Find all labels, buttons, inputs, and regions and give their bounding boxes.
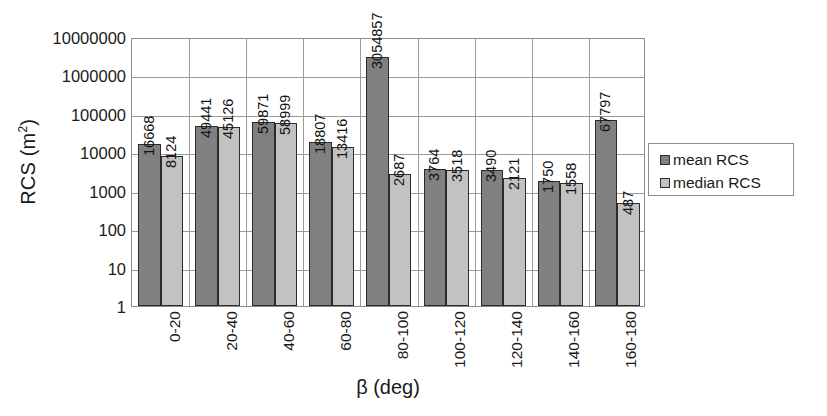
bar-value-label-mean-120-140: 3490 [484,150,499,182]
x-axis-tick-80-100: 80-100 [395,311,411,359]
bar-value-label-mean-80-100: 3054857 [370,12,385,68]
bar-value-label-median-0-20: 8124 [164,135,179,167]
legend-label-mean: mean RCS [673,152,749,168]
y-axis-tick-100000: 100000 [2,107,126,123]
bar-value-label-median-40-60: 58999 [278,94,293,134]
bar-group-80-100: 30548572687 [360,39,417,306]
y-axis-tick-labels: 100000001000000100000100001000100101 [0,0,126,416]
x-axis-tick-60-80: 60-80 [338,311,354,351]
bar-mean-20-40[interactable] [195,126,218,306]
y-axis-tick-10000: 10000 [2,145,126,161]
rcs-bar-chart: RCS (m2) 1000000010000001000001000010001… [0,0,827,416]
bar-group-100-120: 37643518 [418,39,475,306]
bar-mean-140-160[interactable] [538,181,561,306]
bar-median-0-20[interactable] [161,156,184,306]
x-axis-tick-160-180: 160-180 [623,311,639,368]
bar-group-140-160: 17501558 [532,39,589,306]
x-axis-tick-40-60: 40-60 [281,311,297,351]
bar-median-60-80[interactable] [332,147,355,306]
legend-swatch-median-icon [660,178,670,188]
bar-mean-120-140[interactable] [481,170,504,306]
bar-value-label-median-100-120: 3518 [450,149,465,181]
x-axis-tick-140-160: 140-160 [566,311,582,368]
y-axis-tick-100: 100 [2,222,126,238]
bar-median-140-160[interactable] [560,183,583,306]
bar-mean-80-100[interactable] [366,57,389,306]
bar-value-label-median-80-100: 2687 [392,154,407,186]
bar-median-100-120[interactable] [446,170,469,306]
bar-median-80-100[interactable] [389,174,412,306]
y-axis-tick-1000000: 1000000 [2,68,126,84]
bar-value-label-mean-140-160: 1750 [541,161,556,193]
bar-value-label-mean-0-20: 16668 [142,115,157,155]
bar-group-20-40: 4944145126 [189,39,246,306]
y-axis-tick-10: 10 [2,261,126,277]
bar-mean-160-180[interactable] [595,120,618,306]
x-axis-tick-20-40: 20-40 [224,311,240,351]
bar-value-label-median-20-40: 45126 [221,99,236,139]
x-axis-tick-120-140: 120-140 [509,311,525,368]
legend-swatch-mean-icon [660,155,670,165]
bar-group-60-80: 1880713416 [303,39,360,306]
bar-group-120-140: 34902121 [475,39,532,306]
x-axis-title: β (deg) [131,376,645,399]
bar-value-label-mean-100-120: 3764 [427,148,442,180]
bar-median-40-60[interactable] [275,123,298,306]
x-axis-tick-0-20: 0-20 [167,311,183,342]
bar-group-40-60: 5987158999 [246,39,303,306]
bar-mean-0-20[interactable] [138,144,161,306]
y-axis-tick-1000: 1000 [2,184,126,200]
bar-median-160-180[interactable] [617,203,640,306]
y-axis-tick-1: 1 [2,299,126,315]
bar-value-label-mean-40-60: 59871 [256,94,271,134]
plot-area: 1666881244944145126598715899918807134163… [131,38,645,307]
bar-value-label-mean-20-40: 49441 [199,97,214,137]
legend-label-median: median RCS [673,175,761,191]
y-axis-tick-10000000: 10000000 [2,30,126,46]
bar-group-0-20: 166688124 [132,39,189,306]
bar-value-label-mean-60-80: 18807 [313,113,328,153]
bar-median-20-40[interactable] [218,127,241,306]
bar-mean-40-60[interactable] [252,122,275,306]
chart-legend: mean RCSmedian RCS [648,143,794,196]
bar-value-label-median-60-80: 13416 [335,119,350,159]
bar-mean-100-120[interactable] [424,169,447,306]
bar-value-label-median-140-160: 1558 [564,163,579,195]
bar-value-label-median-120-140: 2121 [507,158,522,190]
legend-entry-mean[interactable]: mean RCS [660,152,749,168]
bar-value-label-mean-160-180: 67797 [598,92,613,132]
bar-value-label-median-160-180: 487 [621,191,636,215]
x-axis-tick-100-120: 100-120 [452,311,468,368]
bar-group-160-180: 67797487 [589,39,646,306]
legend-entry-median[interactable]: median RCS [660,175,761,191]
bar-mean-60-80[interactable] [309,142,332,306]
bar-median-120-140[interactable] [503,178,526,306]
